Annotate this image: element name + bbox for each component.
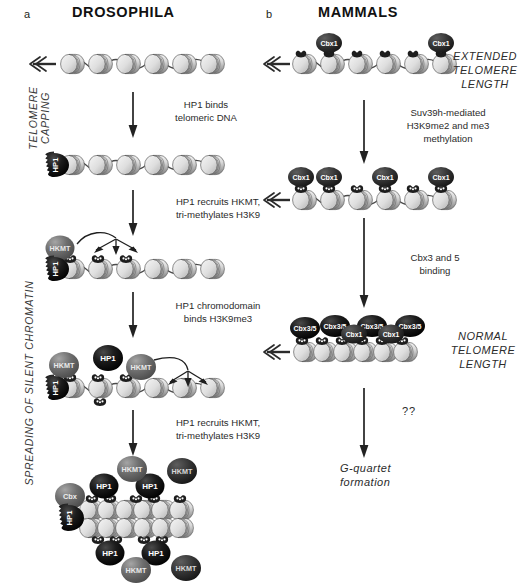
panel-letter-a: a bbox=[24, 8, 30, 20]
protein-hkmt-2: HKMT bbox=[126, 354, 156, 380]
mammals-stage-2-chromatin: Cbx1 Cbx1 Cbx1 Cbx1 bbox=[262, 166, 462, 216]
mammals-caption-3-unknown: ?? bbox=[402, 405, 416, 417]
annotation-line: TELOMERE bbox=[451, 344, 516, 356]
caption-line: Suv39h-mediated bbox=[410, 107, 485, 118]
protein-label-hkmt: HKMT bbox=[131, 363, 152, 372]
annotation-normal-telomere-length: NORMAL TELOMERE LENGTH bbox=[438, 330, 527, 371]
protein-cbx1-3: Cbx1 bbox=[372, 167, 398, 187]
mammals-arrow-3 bbox=[357, 388, 371, 460]
drosophila-stage-3-chromatin: HKMT HP1 bbox=[28, 224, 243, 286]
annotation-line: G-quartet bbox=[340, 462, 391, 474]
side-label-spreading: SPREADING OF SILENT CHROMATIN bbox=[8, 250, 30, 520]
protein-label-cbx1: Cbx1 bbox=[383, 331, 400, 338]
protein-label-cbx1: Cbx1 bbox=[320, 174, 337, 181]
protein-label-cbx1: Cbx1 bbox=[376, 174, 393, 181]
drosophila-stage-1-chromatin bbox=[28, 44, 240, 84]
caption-line: Cbx3 and 5 bbox=[410, 252, 459, 263]
protein-label-cbx1: Cbx1 bbox=[432, 174, 449, 181]
protein-cbx35-1: Cbx3/5 bbox=[290, 317, 320, 339]
protein-cbx1-2: Cbx1 bbox=[316, 167, 342, 187]
drosophila-caption-4: HP1 recruits HKMT, tri-methylates H3K9 bbox=[148, 417, 288, 443]
protein-label-cbx1: Cbx1 bbox=[292, 174, 309, 181]
annotation-line: LENGTH bbox=[459, 358, 507, 370]
figure-root: a DROSOPHILA b MAMMALS TELOMERE CAPPING … bbox=[0, 0, 527, 587]
protein-label-hp1: HP1 bbox=[65, 510, 74, 526]
protein-hp1-bottom-1: HP1 bbox=[96, 541, 125, 566]
protein-hkmt-top-2: HKMT bbox=[167, 458, 197, 484]
protein-cbx1-2: Cbx1 bbox=[378, 325, 404, 344]
protein-hp1-top-1: HP1 bbox=[90, 474, 119, 499]
caption-line: tri-methylates H3K9 bbox=[176, 209, 260, 220]
mammals-stage-1-chromatin: Cbx1 Cbx1 bbox=[262, 30, 462, 82]
protein-label-hp1: HP1 bbox=[102, 549, 118, 558]
caption-line: HP1 recruits HKMT, bbox=[176, 196, 260, 207]
protein-label-hp1: HP1 bbox=[51, 157, 60, 173]
protein-cbx1-1: Cbx1 bbox=[341, 325, 367, 344]
annotation-g-quartet-formation: G-quartet formation bbox=[340, 462, 460, 490]
caption-line: tri-methylates H3K9 bbox=[176, 430, 260, 441]
protein-label-hkmt: HKMT bbox=[126, 566, 147, 575]
annotation-line: TELOMERE bbox=[453, 64, 518, 76]
protein-hkmt-bottom-1: HKMT bbox=[121, 557, 151, 583]
protein-hkmt-1: HKMT bbox=[49, 352, 79, 378]
protein-label-hp1: HP1 bbox=[96, 482, 112, 491]
mammals-caption-2: Cbx3 and 5 binding bbox=[380, 252, 490, 278]
caption-line: HP1 chromodomain bbox=[176, 300, 261, 311]
protein-hp1-bound: HP1 bbox=[93, 345, 123, 371]
annotation-line: EXTENDED bbox=[453, 50, 517, 62]
protein-label-hkmt: HKMT bbox=[176, 564, 197, 573]
panel-letter-b: b bbox=[266, 8, 272, 20]
panel-title-mammals: MAMMALS bbox=[318, 4, 398, 20]
protein-label-hp1: HP1 bbox=[100, 354, 116, 363]
protein-label-hp1: HP1 bbox=[51, 261, 60, 277]
side-label-line2: CAPPING bbox=[39, 92, 51, 144]
protein-label-hp1: HP1 bbox=[142, 482, 158, 491]
caption-line: binds H3K9me3 bbox=[184, 313, 252, 324]
protein-label-cbx1: Cbx1 bbox=[346, 331, 363, 338]
drosophila-arrow-4 bbox=[126, 410, 140, 458]
panel-title-drosophila: DROSOPHILA bbox=[72, 4, 175, 20]
caption-line: binding bbox=[420, 265, 451, 276]
drosophila-arrow-1 bbox=[126, 92, 140, 140]
caption-line: H3K9me2 and me3 bbox=[407, 120, 490, 131]
protein-cbx1-1: Cbx1 bbox=[288, 167, 314, 187]
mammals-arrow-1 bbox=[357, 100, 371, 166]
annotation-line: formation bbox=[340, 476, 390, 488]
protein-hkmt-bottom-2: HKMT bbox=[171, 555, 201, 581]
protein-label-cbx35: Cbx3/5 bbox=[294, 325, 317, 332]
mammals-caption-1: Suv39h-mediated H3K9me2 and me3 methylat… bbox=[378, 107, 518, 145]
drosophila-caption-1: HP1 binds telomeric DNA bbox=[146, 99, 266, 125]
annotation-line: LENGTH bbox=[461, 78, 509, 90]
protein-label-hp1: HP1 bbox=[51, 380, 60, 396]
annotation-extended-telomere-length: EXTENDED TELOMERE LENGTH bbox=[442, 50, 527, 91]
annotation-line: NORMAL bbox=[458, 330, 508, 342]
protein-label-hkmt: HKMT bbox=[54, 361, 75, 370]
caption-line: HP1 binds bbox=[184, 99, 228, 110]
protein-label-hkmt: HKMT bbox=[50, 244, 71, 253]
caption-line: HP1 recruits HKMT, bbox=[176, 417, 260, 428]
caption-line: telomeric DNA bbox=[175, 112, 237, 123]
protein-label-cbx: Cbx bbox=[63, 492, 78, 501]
protein-label-hp1: HP1 bbox=[148, 549, 164, 558]
protein-hkmt-top-1: HKMT bbox=[117, 456, 147, 482]
protein-label-hkmt: HKMT bbox=[122, 465, 143, 474]
caption-line: methylation bbox=[423, 133, 472, 144]
drosophila-stage-2-chromatin: HP1 bbox=[28, 144, 240, 186]
drosophila-stage-5-compacted-chromatin: HP1 HP1 HKMT HKMT Cbx HP1 HP1 bbox=[40, 452, 258, 584]
protein-cbx1-4: Cbx1 bbox=[428, 167, 454, 187]
protein-label-cbx1: Cbx1 bbox=[320, 40, 337, 47]
protein-cbx1-1: Cbx1 bbox=[316, 33, 342, 53]
mammals-stage-3-chromatin: Cbx3/5 Cbx3/5 Cbx3/5 Cbx3/5 Cbx1 Cbx1 bbox=[262, 314, 462, 370]
protein-label-cbx35: Cbx3/5 bbox=[324, 323, 347, 330]
side-label-line1: TELOMERE bbox=[27, 86, 39, 149]
protein-label-cbx35: Cbx3/5 bbox=[399, 323, 422, 330]
protein-label-hkmt: HKMT bbox=[172, 467, 193, 476]
compacted-nucleosome-array bbox=[80, 500, 194, 537]
mammals-arrow-2 bbox=[357, 218, 371, 310]
drosophila-stage-4-chromatin: HKMT HP1 HKMT HP1 bbox=[28, 330, 258, 408]
protein-label-cbx1: Cbx1 bbox=[432, 40, 449, 47]
